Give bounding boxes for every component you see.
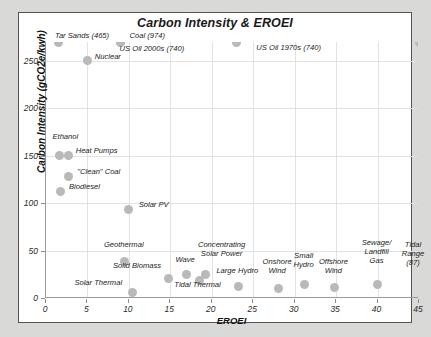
data-point-label: Solid Biomass bbox=[113, 261, 161, 270]
data-point-marker bbox=[232, 42, 241, 47]
data-point-label: Solar PV bbox=[139, 200, 169, 209]
data-point-marker bbox=[234, 282, 243, 291]
x-axis-tick-label: 20 bbox=[196, 304, 226, 314]
data-point-marker bbox=[415, 42, 419, 47]
data-point-label: Biodiesel bbox=[69, 182, 100, 191]
y-axis-tick-label: 150 bbox=[6, 151, 38, 161]
x-axis-tick-mark bbox=[377, 299, 378, 303]
x-axis-tick-mark bbox=[211, 299, 212, 303]
data-point-label: Tidal Range (87) bbox=[402, 240, 424, 267]
data-point-label: Nuclear bbox=[95, 52, 121, 61]
page-title: Carbon Intensity & EROEI bbox=[18, 16, 412, 30]
chart-page: Carbon Intensity & EROEI Carbon Intensit… bbox=[0, 0, 431, 337]
x-axis-tick-label: 0 bbox=[30, 304, 60, 314]
data-point-label: Small Hydro bbox=[293, 251, 313, 269]
data-point-marker bbox=[64, 151, 73, 160]
y-axis-tick-mark bbox=[41, 61, 45, 62]
gridline-horizontal bbox=[46, 156, 418, 157]
x-axis-tick-label: 40 bbox=[362, 304, 392, 314]
x-axis-tick-label: 10 bbox=[113, 304, 143, 314]
y-axis-tick-label: 0 bbox=[6, 293, 38, 303]
y-axis-tick-label: 50 bbox=[6, 246, 38, 256]
data-point-marker bbox=[164, 274, 173, 283]
data-point-label: Solar Thermal bbox=[74, 278, 122, 287]
data-point-marker bbox=[182, 270, 191, 279]
data-point-label: Sewage/ Landfill Gas bbox=[362, 238, 392, 265]
y-axis-tick-label: 200 bbox=[6, 103, 38, 113]
gridline-horizontal bbox=[46, 61, 418, 62]
x-axis-tick-mark bbox=[45, 299, 46, 303]
data-point-marker bbox=[54, 42, 63, 47]
data-point-marker bbox=[124, 205, 133, 214]
gridline-horizontal bbox=[46, 203, 418, 204]
data-point-label: Onshore Wind bbox=[263, 257, 292, 275]
data-point-marker bbox=[274, 284, 283, 293]
x-axis-tick-label: 30 bbox=[279, 304, 309, 314]
gridline-vertical bbox=[129, 42, 130, 297]
y-axis-tick-mark bbox=[41, 251, 45, 252]
x-axis-tick-mark bbox=[335, 299, 336, 303]
data-point-marker bbox=[300, 280, 309, 289]
y-axis-label: Carbon Intensity (gCO2e/kwh) bbox=[36, 17, 47, 187]
x-axis-tick-mark bbox=[86, 299, 87, 303]
x-axis-tick-mark bbox=[418, 299, 419, 303]
data-point-marker bbox=[373, 280, 382, 289]
data-point-marker bbox=[330, 283, 339, 292]
data-point-label: Ethanol bbox=[52, 132, 78, 141]
y-axis-tick-label: 250 bbox=[6, 56, 38, 66]
x-axis-tick-mark bbox=[252, 299, 253, 303]
data-point-label: Tar Sands (465) bbox=[55, 31, 109, 40]
data-point-marker bbox=[55, 151, 64, 160]
data-point-label: US Oil 1970s (740) bbox=[256, 43, 321, 52]
y-axis-tick-mark bbox=[41, 108, 45, 109]
x-axis-label: EROEI bbox=[45, 315, 418, 326]
data-point-label: Large Hydro bbox=[216, 266, 258, 275]
x-axis-tick-label: 5 bbox=[71, 304, 101, 314]
x-axis-tick-label: 15 bbox=[154, 304, 184, 314]
x-axis-tick-label: 25 bbox=[237, 304, 267, 314]
y-axis-tick-label: 100 bbox=[6, 198, 38, 208]
data-point-marker bbox=[56, 187, 65, 196]
x-axis-tick-mark bbox=[294, 299, 295, 303]
data-point-label: Wave bbox=[175, 255, 194, 264]
y-axis-tick-mark bbox=[41, 156, 45, 157]
x-axis-tick-mark bbox=[169, 299, 170, 303]
data-point-label: Coal (974) bbox=[130, 31, 165, 40]
data-point-marker bbox=[64, 172, 73, 181]
gridline-vertical bbox=[212, 42, 213, 297]
x-axis-tick-mark bbox=[128, 299, 129, 303]
data-point-label: Offshore Wind bbox=[319, 257, 348, 275]
data-point-label: Geothermal bbox=[104, 240, 144, 249]
data-point-label: Tidal Thermal bbox=[174, 280, 220, 289]
data-point-label: Concentrating Solar Power bbox=[198, 240, 245, 258]
data-point-marker bbox=[201, 270, 210, 279]
x-axis-tick-label: 35 bbox=[320, 304, 350, 314]
x-axis-tick-label: 45 bbox=[403, 304, 431, 314]
data-point-label: Heat Pumps bbox=[76, 146, 118, 155]
gridline-horizontal bbox=[46, 108, 418, 109]
data-point-marker bbox=[128, 288, 137, 297]
gridline-vertical bbox=[170, 42, 171, 297]
data-point-label: "Clean" Coal bbox=[77, 167, 120, 176]
gridline-vertical bbox=[253, 42, 254, 297]
data-point-marker bbox=[83, 56, 92, 65]
y-axis-tick-mark bbox=[41, 203, 45, 204]
data-point-label: US Oil 2000s (740) bbox=[120, 44, 185, 53]
